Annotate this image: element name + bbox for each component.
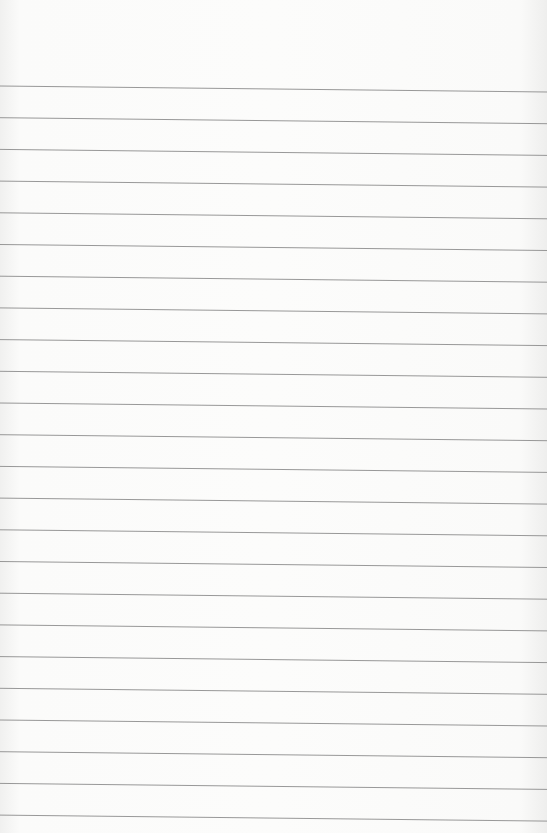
ruled-line <box>0 466 547 472</box>
ruled-line <box>0 149 547 155</box>
ruled-line <box>0 181 547 187</box>
ruled-line <box>0 308 547 314</box>
ruled-line <box>0 783 547 789</box>
ruled-line <box>0 245 547 251</box>
ruled-lines <box>0 0 547 833</box>
ruled-line <box>0 118 547 124</box>
ruled-line <box>0 752 547 758</box>
ruled-line <box>0 213 547 219</box>
ruled-line <box>0 435 547 441</box>
ruled-line <box>0 403 547 409</box>
ruled-line <box>0 498 547 504</box>
ruled-line <box>0 340 547 346</box>
ruled-line <box>0 815 547 821</box>
ruled-line <box>0 86 547 92</box>
ruled-line <box>0 688 547 694</box>
ruled-line <box>0 562 547 568</box>
ruled-line <box>0 625 547 631</box>
ruled-line <box>0 371 547 377</box>
ruled-line <box>0 657 547 663</box>
ruled-line <box>0 530 547 536</box>
ruled-line <box>0 720 547 726</box>
lined-paper-sheet <box>0 0 547 833</box>
ruled-line <box>0 593 547 599</box>
ruled-line <box>0 276 547 282</box>
